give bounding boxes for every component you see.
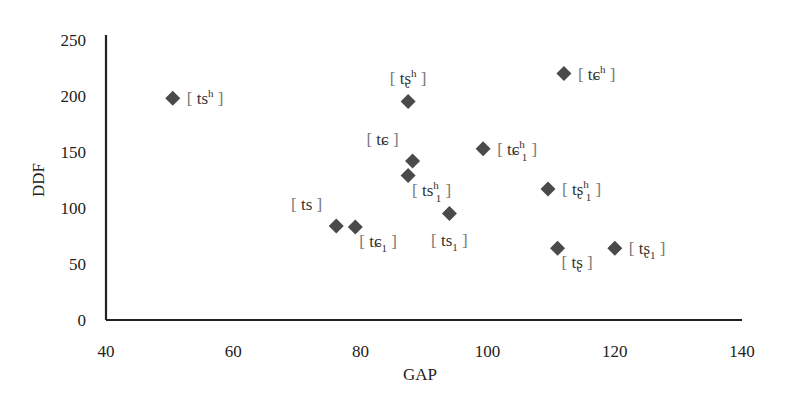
data-point-label: [ tɕh1 ] — [497, 138, 537, 163]
data-point-marker — [607, 241, 622, 256]
data-point-label: [ tɕ1 ] — [359, 232, 397, 254]
x-tick-label: 140 — [729, 342, 755, 361]
x-tick-label: 40 — [98, 342, 115, 361]
x-tick-label: 120 — [602, 342, 628, 361]
scatter-chart: 050100150200250 406080100120140 DDF GAP … — [0, 0, 785, 414]
data-point-label: [ tsh ] — [187, 87, 224, 108]
point-labels: [ tsh ][ tʂh ][ tɕh ][ tɕ ][ tsh1 ][ tɕh… — [187, 63, 666, 273]
y-tick-label: 200 — [61, 87, 87, 106]
x-tick-label: 80 — [352, 342, 369, 361]
x-tick-label: 60 — [225, 342, 242, 361]
data-point-marker — [329, 218, 344, 233]
data-point-marker — [165, 91, 180, 106]
data-point-label: [ tɕh ] — [578, 63, 616, 84]
data-point-label: [ tʂh1 ] — [562, 178, 601, 203]
x-axis-title: GAP — [403, 365, 437, 384]
y-tick-label: 100 — [61, 199, 87, 218]
data-point-marker — [541, 181, 556, 196]
data-point-label: [ ts1 ] — [431, 231, 468, 253]
y-tick-label: 0 — [78, 311, 87, 330]
data-point-marker — [442, 206, 457, 221]
data-point-label: [ tʂ1 ] — [629, 239, 666, 261]
data-point-marker — [405, 153, 420, 168]
y-tick-label: 50 — [69, 255, 86, 274]
data-point-label: [ ts ] — [291, 195, 322, 214]
y-axis-title: DDF — [29, 163, 48, 197]
y-tick-labels: 050100150200250 — [61, 31, 87, 330]
data-point-label: [ tɕ ] — [366, 130, 398, 149]
data-points — [165, 66, 622, 256]
y-tick-label: 150 — [61, 143, 87, 162]
x-tick-labels: 406080100120140 — [98, 342, 755, 361]
data-point-label: [ tʂ ] — [562, 253, 593, 272]
data-point-label: [ tʂh ] — [390, 67, 427, 88]
y-tick-label: 250 — [61, 31, 87, 50]
x-tick-label: 100 — [475, 342, 501, 361]
data-point-label: [ tsh1 ] — [412, 179, 451, 204]
data-point-marker — [556, 66, 571, 81]
data-point-marker — [476, 141, 491, 156]
data-point-marker — [401, 94, 416, 109]
